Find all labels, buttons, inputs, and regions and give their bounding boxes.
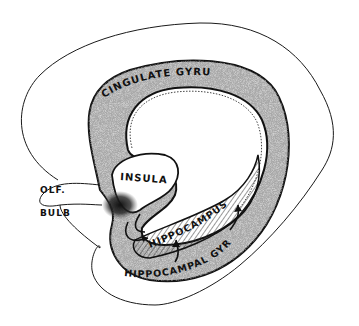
limbic-lobe-diagram: CINGULATE GYRUS INSULA OLF. BULB HIPPOCA…	[0, 0, 359, 326]
insula-dark-stipple	[102, 191, 138, 219]
label-bulb: BULB	[40, 208, 71, 218]
label-olf: OLF.	[40, 185, 66, 195]
diagram-canvas: CINGULATE GYRUS INSULA OLF. BULB HIPPOCA…	[0, 0, 359, 326]
